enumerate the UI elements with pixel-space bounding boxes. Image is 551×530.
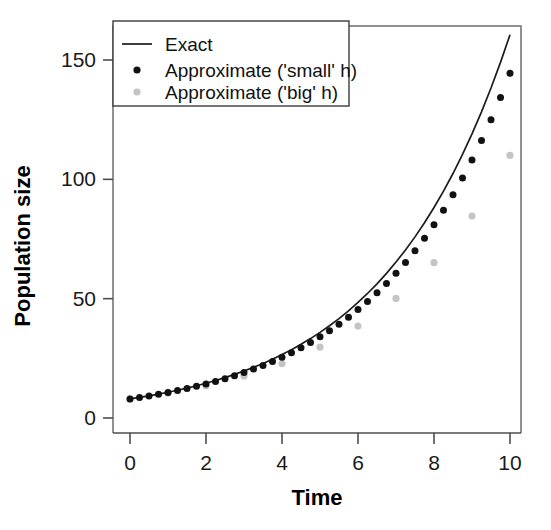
data-point-big-h [278, 360, 285, 367]
data-point-small-h [355, 306, 362, 313]
data-point-big-h [354, 323, 361, 330]
data-point-small-h [231, 372, 238, 379]
data-point-small-h [431, 221, 438, 228]
data-point-small-h [497, 94, 504, 101]
legend-marker-small-h [133, 66, 140, 73]
data-point-small-h [193, 383, 200, 390]
y-axis-title: Population size [10, 165, 35, 326]
legend-marker-big-h [133, 88, 140, 95]
data-point-small-h [507, 70, 514, 77]
data-point-small-h [222, 375, 229, 382]
data-point-small-h [440, 207, 447, 214]
data-point-small-h [250, 366, 257, 373]
data-point-small-h [450, 191, 457, 198]
data-point-big-h [392, 295, 399, 302]
data-point-small-h [326, 327, 333, 334]
data-point-small-h [317, 333, 324, 340]
data-point-small-h [241, 369, 248, 376]
y-tick-label: 0 [84, 406, 96, 429]
data-point-small-h [155, 391, 162, 398]
y-tick-label: 150 [61, 48, 96, 71]
data-point-small-h [260, 362, 267, 369]
data-point-small-h [146, 392, 153, 399]
data-point-big-h [316, 344, 323, 351]
data-point-small-h [402, 259, 409, 266]
data-point-small-h [212, 378, 219, 385]
x-tick-label: 0 [124, 451, 136, 474]
data-point-small-h [393, 270, 400, 277]
data-point-small-h [469, 156, 476, 163]
data-point-small-h [174, 387, 181, 394]
data-point-small-h [336, 321, 343, 328]
data-point-small-h [421, 235, 428, 242]
data-point-small-h [136, 394, 143, 401]
chart-legend: Exact Approximate ('small' h) Approximat… [113, 21, 357, 106]
x-tick-label: 2 [200, 451, 212, 474]
data-point-small-h [307, 339, 314, 346]
data-point-big-h [506, 152, 513, 159]
x-tick-label: 8 [428, 451, 440, 474]
data-point-small-h [488, 116, 495, 123]
x-axis-title: Time [292, 485, 343, 510]
data-point-small-h [165, 389, 172, 396]
data-point-small-h [269, 358, 276, 365]
data-point-small-h [184, 385, 191, 392]
legend-label-small-h: Approximate ('small' h) [165, 60, 357, 81]
data-point-small-h [203, 380, 210, 387]
data-point-small-h [288, 349, 295, 356]
data-point-small-h [374, 289, 381, 296]
data-point-big-h [468, 212, 475, 219]
data-point-small-h [478, 137, 485, 144]
x-tick-label: 6 [352, 451, 364, 474]
data-point-small-h [412, 247, 419, 254]
data-point-small-h [459, 174, 466, 181]
y-tick-label: 100 [61, 167, 96, 190]
data-point-big-h [430, 259, 437, 266]
y-tick-label: 50 [73, 287, 96, 310]
data-point-small-h [383, 280, 390, 287]
chart-canvas: 050100150 0246810 Time Population size E… [0, 0, 551, 530]
population-growth-chart: 050100150 0246810 Time Population size E… [0, 0, 551, 530]
legend-label-big-h: Approximate ('big' h) [165, 82, 338, 103]
data-point-small-h [279, 354, 286, 361]
legend-label-exact: Exact [165, 34, 213, 55]
x-tick-label: 10 [498, 451, 521, 474]
data-point-small-h [127, 395, 134, 402]
data-point-small-h [364, 298, 371, 305]
x-tick-label: 4 [276, 451, 288, 474]
data-point-small-h [345, 314, 352, 321]
data-point-small-h [298, 344, 305, 351]
